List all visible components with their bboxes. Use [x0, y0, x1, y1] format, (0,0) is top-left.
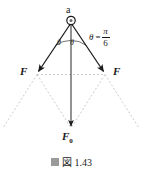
dashed-left-inner [37, 75, 71, 129]
angle-equation: θ = π 6 [89, 27, 110, 48]
square-bullet-icon [51, 158, 59, 166]
resultant-force-subscript: 0 [69, 137, 73, 145]
equation-fraction: π 6 [102, 27, 110, 48]
fraction-denominator: 6 [102, 38, 109, 48]
force-label-left: F [20, 66, 27, 77]
dashed-right-inner [71, 75, 105, 129]
force-label-right: F [113, 66, 120, 77]
equation-theta-symbol: θ [89, 33, 93, 42]
apex-point-label: a [66, 5, 70, 15]
fraction-numerator: π [102, 27, 109, 37]
angle-label-right: θ [70, 39, 74, 47]
angle-label-left: θ [57, 39, 61, 47]
dashed-left-outer [3, 75, 37, 129]
caption-text: 図 1.43 [62, 154, 92, 169]
figure-caption: 図 1.43 [0, 152, 143, 171]
pivot-dot-icon [70, 19, 73, 22]
dashed-right-outer [105, 75, 139, 129]
force-vector-left [39, 23, 72, 72]
figure-container: a θ θ θ = π 6 F F F0 図 1.43 [0, 0, 143, 171]
equation-equals-sign: = [95, 33, 100, 42]
resultant-force-label: F0 [62, 131, 73, 145]
